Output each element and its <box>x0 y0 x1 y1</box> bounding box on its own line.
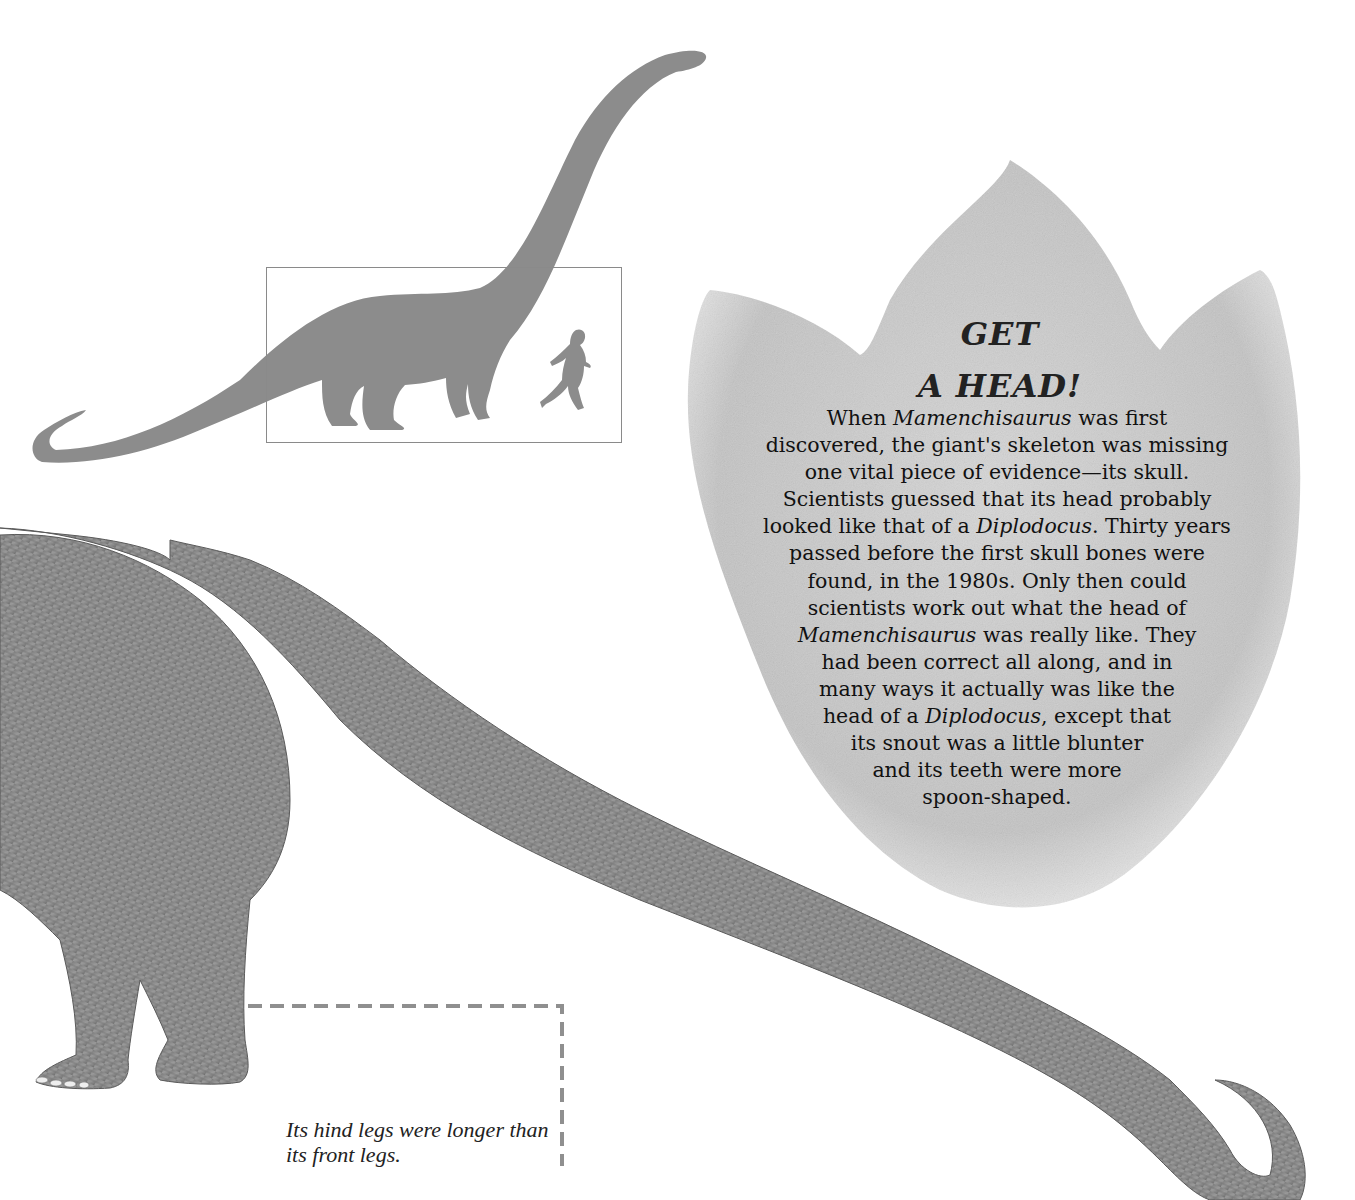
callout-leader-line <box>0 0 1355 1200</box>
illustration-caption: Its hind legs were longer than its front… <box>286 1117 556 1167</box>
